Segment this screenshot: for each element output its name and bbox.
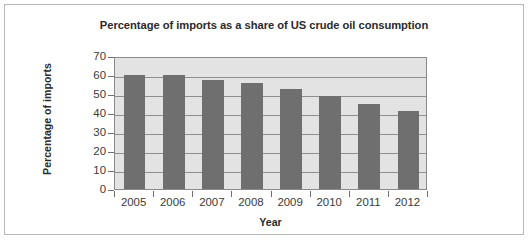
bar-2010: [319, 96, 341, 189]
gridline-60: [115, 77, 426, 78]
y-axis-title: Percentage of imports: [41, 44, 53, 194]
x-tick-label: 2005: [114, 197, 153, 208]
x-tick-label: 2008: [231, 197, 270, 208]
x-tick-mark: [192, 191, 193, 197]
bar-2009: [280, 89, 302, 189]
y-tick-label: 30: [64, 127, 106, 138]
x-tick-label: 2006: [153, 197, 192, 208]
x-axis-title: Year: [114, 216, 427, 228]
x-tick-label: 2009: [271, 197, 310, 208]
bar-2006: [163, 75, 185, 189]
x-tick-label: 2011: [349, 197, 388, 208]
plot-area: [114, 57, 427, 190]
y-tick-label: 0: [64, 184, 106, 195]
chart-title: Percentage of imports as a share of US c…: [5, 19, 523, 31]
bar-2011: [358, 104, 380, 190]
y-tick-label: 70: [64, 51, 106, 62]
gridline-50: [115, 96, 426, 97]
y-tick-label: 20: [64, 146, 106, 157]
y-tick-label: 50: [64, 89, 106, 100]
y-tick-label: 10: [64, 165, 106, 176]
bar-2005: [124, 75, 146, 189]
bar-2012: [398, 111, 420, 189]
x-tick-mark: [349, 191, 350, 197]
x-tick-label: 2007: [192, 197, 231, 208]
x-tick-mark: [153, 191, 154, 197]
x-tick-mark: [231, 191, 232, 197]
x-tick-mark: [427, 191, 428, 197]
bar-2007: [202, 80, 224, 189]
x-tick-mark: [310, 191, 311, 197]
y-tick-label: 40: [64, 108, 106, 119]
x-tick-label: 2010: [310, 197, 349, 208]
bar-2008: [241, 83, 263, 189]
x-tick-mark: [271, 191, 272, 197]
figure-frame: Percentage of imports as a share of US c…: [4, 4, 524, 235]
x-tick-mark: [388, 191, 389, 197]
x-tick-label: 2012: [388, 197, 427, 208]
x-tick-mark: [114, 191, 115, 197]
y-tick-label: 60: [64, 70, 106, 81]
